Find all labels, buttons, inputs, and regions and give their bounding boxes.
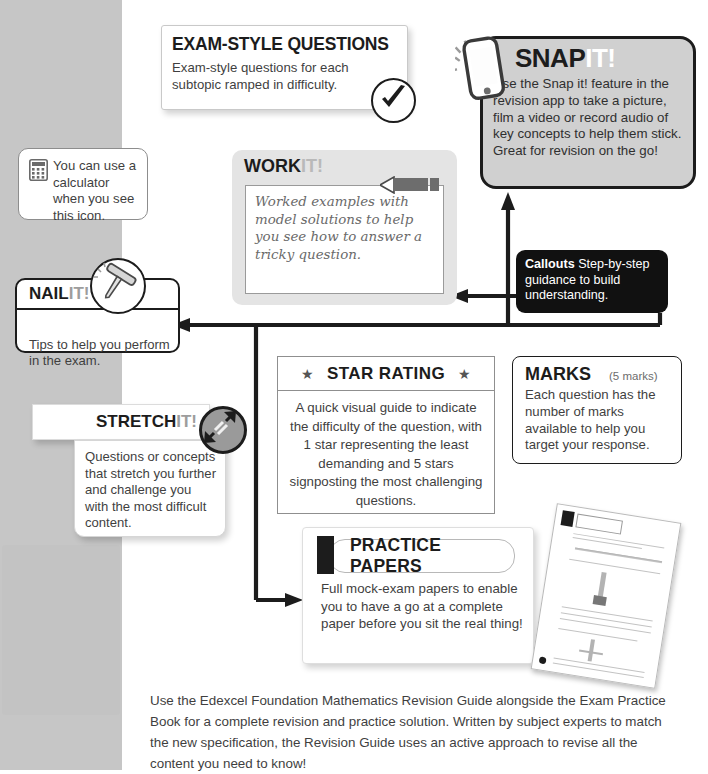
callouts-label: Callouts (525, 257, 575, 271)
calculator-icon (29, 159, 48, 181)
practice-papers-marker (317, 536, 334, 574)
stretch-it-header: STRETCHIT! (32, 404, 210, 440)
star-icon-right: ★ (458, 366, 471, 382)
work-title-main: WORK (244, 156, 301, 176)
stretch-title-accent: IT! (176, 412, 197, 431)
practice-papers-title-pill: PRACTICE PAPERS (329, 539, 515, 573)
stretch-body-text: Questions or concepts that stretch you f… (85, 449, 217, 532)
star-rating-title: STAR RATING (327, 364, 445, 384)
snap-card-body: Use the Snap it! feature in the revision… (493, 76, 684, 160)
exam-card-title: EXAM-STYLE QUESTIONS (172, 34, 407, 55)
marks-value: (5 marks) (609, 370, 658, 382)
work-card-title: WORKIT! (244, 156, 457, 177)
stretch-title-main: STRETCH (96, 412, 176, 431)
work-title-accent: IT! (301, 156, 323, 176)
calculator-note-card: You can use a calculator when you see th… (18, 148, 148, 220)
star-rating-header: ★ STAR RATING ★ (278, 357, 494, 391)
thumb-title-tab (575, 514, 623, 535)
footer-paragraph: Use the Edexcel Foundation Mathematics R… (150, 690, 670, 774)
nail-card-body: Tips to help you perform in the exam. (29, 337, 170, 370)
thumb-marker (561, 510, 575, 527)
stretch-arrows-icon (199, 406, 247, 454)
marks-title: MARKS (525, 364, 591, 385)
snap-card-title: SNAPIT! (515, 43, 693, 74)
marks-header: MARKS (5 marks) (525, 364, 681, 385)
star-rating-body: A quick visual guide to indicate the dif… (288, 399, 484, 511)
practice-papers-body: Full mock-exam papers to enable you to h… (321, 580, 523, 633)
snap-title-main: SNAP (515, 43, 585, 73)
snap-title-accent: IT! (585, 43, 615, 73)
work-card-body: Worked examples with model solutions to … (255, 193, 434, 263)
star-icon-left: ★ (301, 366, 314, 382)
phone-icon (455, 27, 511, 103)
marks-body: Each question has the number of marks av… (525, 387, 673, 454)
nail-card-divider (17, 308, 178, 310)
nail-title-main: NAIL (29, 284, 69, 303)
stretch-title: STRETCHIT! (96, 412, 197, 432)
tick-icon (371, 78, 416, 123)
callouts-card: Callouts Step-by-step guidance to build … (516, 250, 668, 313)
star-rating-card: ★ STAR RATING ★ A quick visual guide to … (277, 356, 495, 514)
practice-paper-thumbnail (531, 503, 682, 689)
calculator-note-body: You can use a calculator when you see th… (53, 158, 139, 224)
practice-papers-card: PRACTICE PAPERS Full mock-exam papers to… (302, 527, 534, 664)
thumb-dot (539, 656, 547, 664)
marks-card: MARKS (5 marks) Each question has the nu… (512, 356, 682, 464)
callouts-card-body: Callouts Step-by-step guidance to build … (525, 257, 659, 304)
nail-icon (90, 258, 146, 314)
nail-title-accent: IT! (69, 284, 90, 303)
stretch-it-body-card: Questions or concepts that stretch you f… (74, 440, 226, 537)
snap-it-card: SNAPIT! Use the Snap it! feature in the … (480, 36, 696, 189)
work-card-inner-panel: Worked examples with model solutions to … (245, 185, 444, 294)
pencil-icon (380, 176, 446, 194)
work-it-card: WORKIT! Worked examples with model solut… (232, 150, 457, 305)
practice-papers-title: PRACTICE PAPERS (350, 535, 514, 577)
exam-card-body: Exam-style questions for each subtopic r… (172, 60, 397, 93)
